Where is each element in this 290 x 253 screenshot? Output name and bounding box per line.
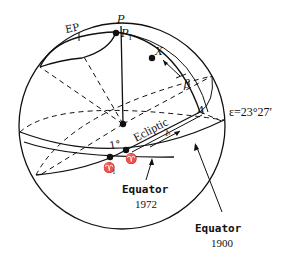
vernal-equinox-1-subscript: 1: [112, 168, 116, 175]
vernal-equinox-1-dot: [107, 154, 113, 160]
precession-circle-back: [40, 32, 116, 67]
meridian-x-a: [116, 32, 200, 112]
celestial-sphere-diagram: P P 1 EP X β A ε=23°27′ Ecliptic λ 1° ♈ …: [0, 0, 290, 253]
pole-label: P: [116, 13, 125, 26]
center-dot: [120, 121, 126, 127]
equator-1972-arrowhead: [149, 158, 154, 165]
meridian-x-a-outer: [116, 32, 208, 112]
star-label: X: [154, 45, 164, 58]
polar-axis: [121, 26, 123, 124]
pole-1-subscript: 1: [128, 34, 132, 42]
equator-1900-year: 1900: [211, 237, 234, 249]
latitude-label: β: [183, 78, 190, 91]
one-degree-label: 1°: [108, 138, 121, 151]
dashed-radius-1: [40, 67, 123, 124]
pole-p1-dot: [113, 30, 119, 36]
obliquity-label: ε=23°27′: [229, 105, 273, 119]
equator-1972-year: 1972: [135, 198, 157, 210]
equator-1900-label: Equator: [195, 222, 242, 235]
point-a-label: A: [196, 104, 205, 117]
equator-1972-label: Equator: [122, 183, 169, 196]
latitude-arrowhead: [163, 60, 168, 66]
equator-1900-pointer: [196, 145, 222, 212]
vernal-equinox-label: ♈: [125, 152, 137, 165]
